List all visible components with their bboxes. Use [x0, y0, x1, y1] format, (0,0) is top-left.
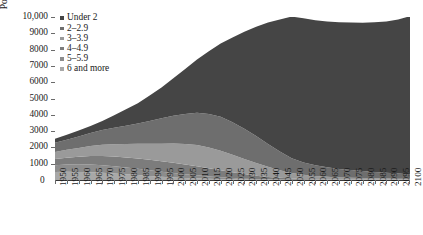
legend-item-label: 3–3.9	[67, 34, 88, 43]
x-axis-tick-mark	[79, 180, 80, 184]
chart-legend: Under 22–2.93–3.94–4.95–5.96 and more	[60, 13, 109, 74]
legend-swatch-icon	[60, 16, 64, 20]
x-axis-tick-mark	[292, 180, 293, 184]
legend-swatch-icon	[60, 57, 64, 61]
x-axis-tick-mark	[386, 180, 387, 184]
x-axis-tick-mark	[185, 180, 186, 184]
legend-item: 2–2.9	[60, 23, 109, 33]
y-axis-tick-label: 9000	[29, 28, 48, 37]
x-axis-tick-mark	[256, 180, 257, 184]
x-axis-tick-mark	[173, 180, 174, 184]
legend-item: 6 and more	[60, 64, 109, 74]
x-axis-tick-mark	[304, 180, 305, 184]
legend-item: Under 2	[60, 13, 109, 23]
x-axis-tick-mark	[55, 180, 56, 184]
x-axis-tick-mark	[244, 180, 245, 184]
y-axis-tick-label: 8000	[29, 45, 48, 54]
x-axis-tick-label: 2100	[414, 168, 423, 186]
legend-item-label: 4–4.9	[67, 44, 88, 53]
x-axis-tick-mark	[126, 180, 127, 184]
x-axis-tick-mark	[138, 180, 139, 184]
legend-item-label: 2–2.9	[67, 24, 88, 33]
y-axis-tick-label: 3000	[29, 126, 48, 135]
x-axis-tick-mark	[339, 180, 340, 184]
y-axis-tick-label: 6000	[29, 77, 48, 86]
y-axis-tick-label: 7000	[29, 61, 48, 70]
legend-item-label: 6 and more	[67, 64, 109, 73]
x-axis-tick-mark	[409, 180, 410, 184]
x-axis-tick-mark	[197, 180, 198, 184]
x-axis-tick-mark	[114, 180, 115, 184]
x-axis-tick-mark	[268, 180, 269, 184]
x-axis-tick-mark	[398, 180, 399, 184]
y-axis-tick-label: 4000	[29, 110, 48, 119]
x-axis-tick-mark	[351, 180, 352, 184]
legend-item-label: Under 2	[67, 13, 97, 22]
x-axis-tick-mark	[315, 180, 316, 184]
y-axis-tick-label: 2000	[29, 142, 48, 151]
x-axis-tick-mark	[327, 180, 328, 184]
legend-swatch-icon	[60, 27, 64, 31]
x-axis-tick-mark	[67, 180, 68, 184]
y-axis-zero-label: 0	[40, 175, 45, 185]
x-axis-tick-mark	[363, 180, 364, 184]
legend-swatch-icon	[60, 37, 64, 41]
legend-item-label: 5–5.9	[67, 54, 88, 63]
x-axis-tick-mark	[209, 180, 210, 184]
y-axis-tick-label: 1000	[29, 159, 48, 168]
x-axis-tick-mark	[102, 180, 103, 184]
x-axis-tick-mark	[221, 180, 222, 184]
y-axis-tick-label: 5000	[29, 94, 48, 103]
x-axis-tick-mark	[150, 180, 151, 184]
y-axis-tick-label: 10,000	[22, 12, 48, 21]
x-axis-ticks: 1950195519601965197019751980198519901995…	[55, 180, 410, 235]
x-axis-tick-mark	[375, 180, 376, 184]
x-axis-tick-mark	[91, 180, 92, 184]
x-axis-tick-mark	[280, 180, 281, 184]
legend-swatch-icon	[60, 67, 64, 71]
x-axis-tick-mark	[162, 180, 163, 184]
legend-swatch-icon	[60, 47, 64, 51]
y-axis-ticks: 10,0009000800070006000500040003000200010…	[0, 0, 55, 198]
x-axis-tick-mark	[233, 180, 234, 184]
